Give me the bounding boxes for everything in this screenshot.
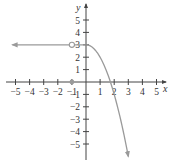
x-tick-label: −3 bbox=[39, 87, 49, 97]
x-tick-label: −2 bbox=[53, 87, 63, 97]
x-tick-label: 5 bbox=[154, 87, 159, 97]
y-tick-label: −2 bbox=[70, 102, 80, 112]
y-axis-label: y bbox=[75, 2, 81, 13]
closed-point bbox=[70, 80, 75, 85]
y-tick-label: −5 bbox=[70, 140, 80, 150]
x-tick-label: 1 bbox=[98, 87, 103, 97]
y-tick-label: −3 bbox=[70, 115, 80, 125]
y-tick-label: 1 bbox=[75, 65, 80, 75]
x-tick-label: 4 bbox=[140, 87, 145, 97]
x-tick-label: −4 bbox=[25, 87, 35, 97]
y-tick-label: −4 bbox=[70, 127, 80, 137]
y-tick-label: 5 bbox=[75, 16, 80, 26]
x-tick-label: −5 bbox=[10, 87, 20, 97]
open-point bbox=[69, 42, 74, 47]
parabola-segment bbox=[86, 45, 128, 157]
function-graph: −5−4−3−2−112345 54321−1−2−3−4−5 x y bbox=[0, 0, 170, 163]
y-tick-label: 2 bbox=[75, 53, 80, 63]
x-tick-label: 3 bbox=[126, 87, 131, 97]
x-axis-label: x bbox=[162, 83, 168, 94]
y-tick-label: −1 bbox=[70, 90, 80, 100]
y-tick-label: 4 bbox=[75, 28, 80, 38]
